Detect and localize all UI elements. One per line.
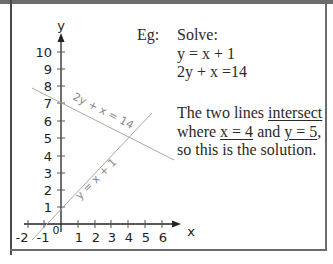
explanation-line-2: where x = 4 and y = 5, (177, 123, 327, 142)
x-axis-label: x (187, 224, 195, 239)
x-tick-label: 1 (75, 230, 83, 245)
y-tick-label: 8 (44, 79, 52, 94)
y-tick-label: 9 (44, 62, 52, 77)
x-tick-label: 4 (125, 230, 133, 245)
x-tick-label: -2 (16, 230, 29, 245)
origin-label: 0 (53, 224, 60, 237)
line-label-2y-plus-x-equals-14: 2y + x = 14 (71, 90, 136, 132)
y-tick-label: 4 (44, 149, 52, 164)
y-tick-label: 6 (44, 114, 52, 129)
y-axis-arrow-icon (58, 33, 65, 42)
x-tick-label: 5 (142, 230, 150, 245)
x-tick-label: -1 (37, 230, 50, 245)
solution-explanation: The two lines intersect where x = 4 and … (177, 104, 327, 160)
text: where (177, 123, 220, 140)
y-tick-label: 7 (44, 96, 52, 111)
y-tick-label: 10 (35, 45, 52, 60)
underlined-intersect: intersect (268, 104, 322, 121)
x-tick-label: 3 (108, 230, 116, 245)
y-tick-label: 3 (44, 166, 52, 181)
text: The two lines (177, 104, 268, 121)
problem-statement: Solve: y = x + 1 2y + x =14 (177, 26, 247, 82)
text: , (317, 123, 321, 140)
y-axis-label: y (57, 18, 65, 33)
line-label-y-equals-x-plus-1: y = x + 1 (73, 156, 119, 202)
y-tick-label: 5 (44, 131, 52, 146)
solve-heading: Solve: (177, 26, 247, 45)
line-2y-plus-x-equals-14 (32, 88, 174, 160)
x-tick-label: 6 (159, 230, 167, 245)
x-axis-arrow-icon (172, 221, 181, 228)
example-label: Eg: (137, 26, 159, 45)
underlined-y-value: y = 5 (284, 123, 317, 140)
explanation-line-3: so this is the solution. (177, 141, 327, 160)
y-tick-label: 1 (44, 200, 52, 215)
equation-1: y = x + 1 (177, 45, 247, 64)
y-tick-label: 2 (44, 183, 52, 198)
x-tick-label: 2 (92, 230, 100, 245)
equation-2: 2y + x =14 (177, 63, 247, 82)
underlined-x-value: x = 4 (220, 123, 253, 140)
text: and (253, 123, 284, 140)
explanation-line-1: The two lines intersect (177, 104, 327, 123)
